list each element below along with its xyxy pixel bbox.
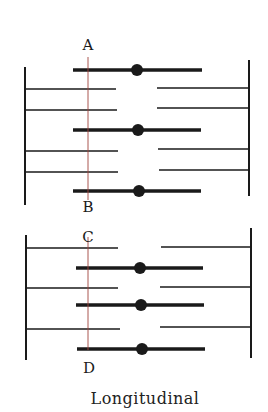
diagram-caption: Longitudinal bbox=[91, 389, 200, 408]
m-line-dot-icon bbox=[136, 343, 148, 355]
m-line-dot-icon bbox=[134, 262, 146, 274]
top-sarcomere: AB bbox=[25, 36, 250, 216]
point-label-a: A bbox=[82, 36, 94, 54]
m-line-dot-icon bbox=[131, 64, 143, 76]
m-line-dot-icon bbox=[133, 185, 145, 197]
point-label-b: B bbox=[82, 198, 93, 216]
sarcomere-diagram: ABCD Longitudinal bbox=[0, 0, 268, 412]
point-label-d: D bbox=[83, 359, 95, 377]
point-label-c: C bbox=[82, 228, 93, 246]
bottom-sarcomere: CD bbox=[26, 228, 251, 377]
m-line-dot-icon bbox=[135, 299, 147, 311]
m-line-dot-icon bbox=[132, 124, 144, 136]
